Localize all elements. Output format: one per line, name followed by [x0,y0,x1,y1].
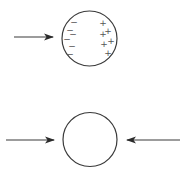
diagram-canvas: −−−−−−++++++ [0,0,193,173]
negative-charge-icon: − [66,49,74,59]
polarized-sphere-panel: −−−−−−++++++ [14,11,117,66]
positive-charge-icon: + [107,36,115,46]
positive-charge-icon: + [99,29,107,39]
sphere-outline [63,113,117,167]
neutral-sphere-panel [6,113,180,167]
positive-charge-icon: + [104,48,112,58]
